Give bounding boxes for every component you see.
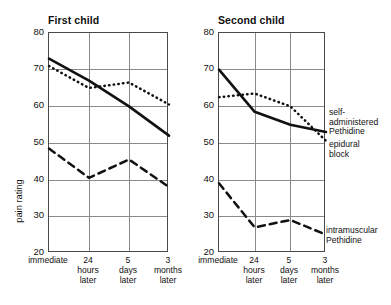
gridline-y-40: [219, 180, 324, 181]
series-self-administered-pethidine-second-child: [219, 94, 326, 141]
x-tick-second-3-months-later: 3 months later: [305, 255, 345, 286]
legend-label-epidural-block: epidural block: [329, 140, 360, 159]
gridline-y-30: [219, 216, 324, 217]
y-tick-second-30: 30: [196, 210, 214, 219]
y-tick-first-40: 40: [26, 174, 44, 183]
x-tick-first-3-months-later: 3 months later: [148, 255, 188, 286]
gridline-y-60: [49, 106, 167, 107]
y-tick-first-80: 80: [26, 27, 44, 36]
gridline-y-40: [49, 180, 167, 181]
gridline-y-70: [49, 69, 167, 70]
legend-label-self-administered-pethidine: self- administered Pethidine: [329, 108, 378, 137]
x-tick-second-5-days-later: 5 days later: [269, 255, 309, 286]
series-intramuscular-pethidine-second-child: [219, 183, 326, 234]
series-self-administered-pethidine-first-child: [49, 66, 169, 105]
chart-figure: First child Second child pain rating 80 …: [0, 0, 391, 305]
y-tick-first-70: 70: [26, 63, 44, 72]
y-tick-second-70: 70: [196, 63, 214, 72]
y-tick-second-50: 50: [196, 137, 214, 146]
gridline-y-50: [219, 143, 324, 144]
y-tick-second-80: 80: [196, 27, 214, 36]
y-tick-first-30: 30: [26, 210, 44, 219]
gridline-x-5-days: [290, 33, 291, 251]
gridline-x-24-hours: [255, 33, 256, 251]
gridline-x-5-days: [129, 33, 130, 251]
legend-label-intramuscular-pethidine: intramuscular Pethidine: [326, 226, 378, 245]
gridline-y-60: [219, 106, 324, 107]
y-axis-label: pain rating: [14, 166, 24, 236]
y-tick-second-60: 60: [196, 100, 214, 109]
plot-area-first-child: [48, 32, 168, 252]
x-tick-second-24-hours-later: 24 hours later: [234, 255, 274, 286]
y-tick-second-40: 40: [196, 174, 214, 183]
gridline-y-70: [219, 69, 324, 70]
plot-area-second-child: [218, 32, 325, 252]
series-intramuscular-pethidine-first-child: [49, 149, 169, 188]
gridline-x-24-hours: [89, 33, 90, 251]
panel-title-first-child: First child: [48, 14, 99, 26]
panel-title-second-child: Second child: [218, 14, 285, 26]
x-tick-first-24-hours-later: 24 hours later: [68, 255, 108, 286]
y-tick-first-60: 60: [26, 100, 44, 109]
gridline-y-30: [49, 216, 167, 217]
series-epidural-block-second-child: [219, 70, 326, 132]
y-tick-first-50: 50: [26, 137, 44, 146]
gridline-y-50: [49, 143, 167, 144]
x-tick-first-5-days-later: 5 days later: [108, 255, 148, 286]
